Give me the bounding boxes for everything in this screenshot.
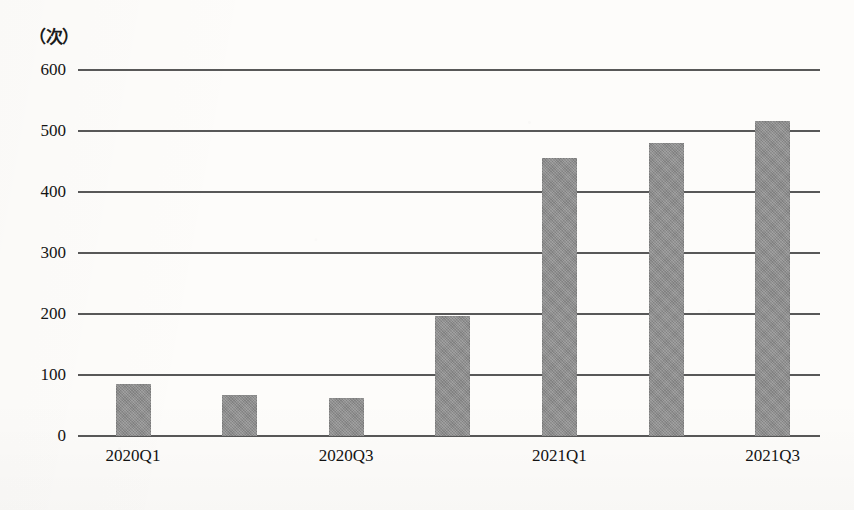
bar-2021Q2 xyxy=(649,143,684,436)
y-axis-tick-labels: 0100200300400500600 xyxy=(0,0,78,510)
y-tick-label-100: 100 xyxy=(41,366,67,383)
bar-2020Q2 xyxy=(222,395,257,436)
x-tick-label-2020Q3: 2020Q3 xyxy=(319,447,374,464)
bar-2020Q1 xyxy=(116,384,151,436)
x-tick-label-2021Q3: 2021Q3 xyxy=(745,447,800,464)
x-tick-label-2020Q1: 2020Q1 xyxy=(106,447,161,464)
bar-2021Q1 xyxy=(542,158,577,436)
x-tick-label-2021Q1: 2021Q1 xyxy=(532,447,587,464)
plot-area xyxy=(78,70,820,436)
bar-2021Q3 xyxy=(755,121,790,436)
y-tick-label-0: 0 xyxy=(58,427,67,444)
gridline-300 xyxy=(78,252,820,254)
x-axis-tick-labels: 2020Q12020Q32021Q12021Q3 xyxy=(78,447,820,481)
gridline-600 xyxy=(78,69,820,71)
gridline-500 xyxy=(78,130,820,132)
gridline-200 xyxy=(78,313,820,315)
gridline-400 xyxy=(78,191,820,193)
bar-chart-figure: （次） 0100200300400500600 2020Q12020Q32021… xyxy=(0,0,854,510)
y-tick-label-400: 400 xyxy=(41,183,67,200)
y-tick-label-600: 600 xyxy=(41,61,67,78)
y-tick-label-500: 500 xyxy=(41,122,67,139)
bar-2020Q3 xyxy=(329,398,364,436)
bar-2020Q4 xyxy=(435,316,470,436)
y-tick-label-300: 300 xyxy=(41,244,67,261)
y-tick-label-200: 200 xyxy=(41,305,67,322)
